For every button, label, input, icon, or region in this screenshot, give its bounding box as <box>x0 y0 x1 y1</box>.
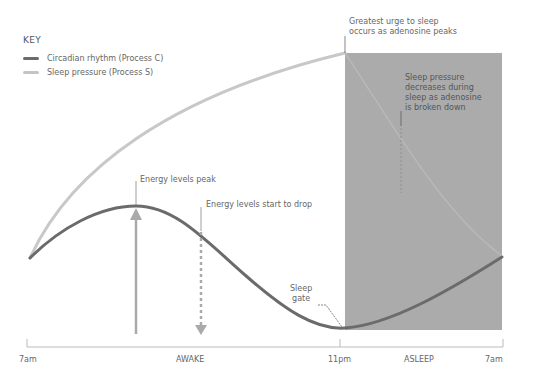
axis-label-7am-start: 7am <box>19 355 37 364</box>
energy-peak-annotation: Energy levels peak <box>140 175 216 185</box>
axis-label-awake: AWAKE <box>176 355 204 364</box>
pressure-decrease-annotation: Sleep pressure decreases during sleep as… <box>405 73 482 113</box>
axis-label-7am-end: 7am <box>485 355 503 364</box>
legend-label-sleep-pressure: Sleep pressure (Process S) <box>47 68 153 77</box>
up-arrowhead-icon <box>130 208 142 220</box>
legend-swatch-sleep-pressure <box>23 71 39 74</box>
legend-item-sleep-pressure: Sleep pressure (Process S) <box>23 68 153 77</box>
axis-label-11pm: 11pm <box>328 355 351 364</box>
legend-swatch-circadian <box>23 57 39 60</box>
sleep-gate-annotation: Sleep gate <box>290 284 312 304</box>
axis-label-asleep: ASLEEP <box>404 355 434 364</box>
legend-label-circadian: Circadian rhythm (Process C) <box>47 54 163 63</box>
down-arrowhead-icon <box>195 325 207 335</box>
energy-drop-annotation: Energy levels start to drop <box>206 200 312 210</box>
greatest-urge-annotation: Greatest urge to sleep occurs as adenosi… <box>349 17 457 37</box>
key-title: KEY <box>23 35 41 45</box>
legend-item-circadian: Circadian rhythm (Process C) <box>23 54 163 63</box>
